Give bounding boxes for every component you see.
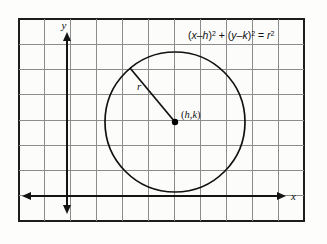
y-axis-label: y bbox=[61, 19, 67, 31]
figure-svg: y x r (h,k) (x–h)2 + (y–k)2 = r2 bbox=[0, 0, 327, 244]
x-axis-label: x bbox=[290, 190, 296, 202]
center-point-dot bbox=[172, 119, 178, 125]
radius-label: r bbox=[137, 80, 142, 92]
circle-equation-annotation: (x–h)2 + (y–k)2 = r2 bbox=[188, 29, 275, 41]
center-point-label: (h,k) bbox=[181, 109, 201, 121]
circle-equation-diagram: y x r (h,k) (x–h)2 + (y–k)2 = r2 bbox=[0, 0, 327, 244]
